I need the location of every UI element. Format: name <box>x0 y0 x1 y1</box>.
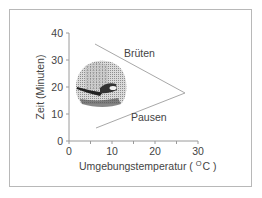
y-tick-label: 30 <box>51 54 63 66</box>
y-tick-label: 10 <box>51 108 63 120</box>
bird-nest-illustration <box>76 61 126 107</box>
annotation-brueten: Brüten <box>124 47 155 59</box>
x-axis-title: Umgebungstemperatur ( OC ) <box>79 159 217 172</box>
y-tick-label: 0 <box>57 135 63 147</box>
y-tick-label: 20 <box>51 81 63 93</box>
x-tick-label: 20 <box>149 145 161 157</box>
x-tick-label: 30 <box>192 145 204 157</box>
y-axis: 40 30 20 10 0 Zeit (Minuten) <box>34 27 69 147</box>
chart: 40 30 20 10 0 Zeit (Minuten) 0 10 20 30 … <box>0 0 262 198</box>
y-axis-title: Zeit (Minuten) <box>34 55 46 120</box>
y-tick-label: 40 <box>51 27 63 39</box>
x-tick-label: 10 <box>106 145 118 157</box>
x-tick-label: 0 <box>66 145 72 157</box>
annotation-pausen: Pausen <box>131 111 167 123</box>
x-axis: 0 10 20 30 Umgebungstemperatur ( OC ) <box>66 141 217 172</box>
